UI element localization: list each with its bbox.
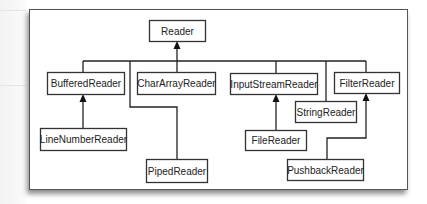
reader-hierarchy-diagram: ReaderBufferedReaderCharArrayReaderInput… <box>0 0 427 204</box>
node-label: InputStreamReader <box>230 79 318 90</box>
node-linenumber: LineNumberReader <box>40 129 128 151</box>
node-piped: PipedReader <box>147 160 208 183</box>
node-reader: Reader <box>150 21 206 42</box>
arrowhead-icon <box>273 94 280 102</box>
node-buffered: BufferedReader <box>48 73 125 95</box>
node-label: PipedReader <box>148 166 207 177</box>
node-label: StringReader <box>297 107 357 118</box>
node-string: StringReader <box>296 102 357 123</box>
arrowhead-icon <box>80 94 87 102</box>
arrowhead-icon <box>174 41 181 49</box>
node-inputstream: InputStreamReader <box>230 74 318 95</box>
node-label: BufferedReader <box>51 78 122 89</box>
node-label: LineNumberReader <box>40 134 128 145</box>
arrowhead-icon <box>363 93 370 101</box>
node-label: FileReader <box>252 135 302 146</box>
node-label: CharArrayReader <box>137 78 216 89</box>
node-file: FileReader <box>246 131 307 151</box>
node-chararray: CharArrayReader <box>137 73 216 95</box>
node-label: FilterReader <box>339 78 395 89</box>
node-pushback: PushbackReader <box>287 160 364 181</box>
nodes: ReaderBufferedReaderCharArrayReaderInput… <box>40 21 400 183</box>
node-filter: FilterReader <box>335 73 400 94</box>
node-label: Reader <box>161 26 194 37</box>
node-label: PushbackReader <box>287 165 364 176</box>
